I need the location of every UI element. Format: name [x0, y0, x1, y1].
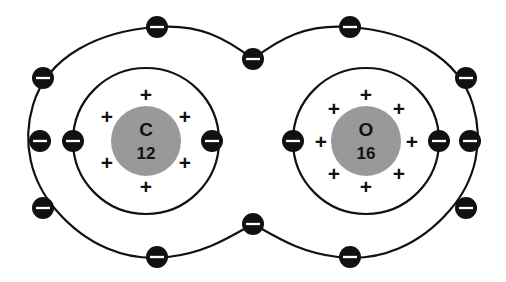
oxygen-element-symbol: O [359, 119, 374, 140]
oxygen-proton: + [328, 97, 340, 120]
carbon-element-symbol: C [139, 119, 153, 140]
carbon-proton: + [179, 151, 191, 174]
carbon-nucleus [111, 106, 181, 176]
electron [29, 130, 51, 152]
electron [339, 16, 361, 38]
electron [62, 130, 84, 152]
electron [201, 130, 223, 152]
electron [428, 130, 450, 152]
electron [146, 16, 168, 38]
carbon-proton: + [140, 83, 152, 106]
oxygen-proton: + [315, 130, 327, 153]
oxygen-proton: + [406, 130, 418, 153]
oxygen-proton: + [393, 162, 405, 185]
electron [455, 197, 477, 219]
electron [339, 246, 361, 268]
oxygen-proton: + [328, 162, 340, 185]
electron [146, 246, 168, 268]
carbon-proton: + [140, 175, 152, 198]
electron [455, 67, 477, 89]
electron [242, 213, 264, 235]
bohr-model-diagram: C 12 + + + + + + O 16 + + + + + + + + [0, 0, 506, 282]
carbon-proton: + [179, 105, 191, 128]
carbon-mass-number: 12 [137, 144, 156, 163]
electron [32, 67, 54, 89]
electron [459, 130, 481, 152]
carbon-proton: + [101, 105, 113, 128]
oxygen-proton: + [360, 175, 372, 198]
oxygen-mass-number: 16 [357, 144, 376, 163]
diagram-canvas: C 12 + + + + + + O 16 + + + + + + + + [0, 0, 506, 282]
oxygen-proton: + [360, 83, 372, 106]
electron [242, 48, 264, 70]
carbon-proton: + [101, 151, 113, 174]
electron [32, 197, 54, 219]
electron [282, 130, 304, 152]
oxygen-proton: + [393, 97, 405, 120]
oxygen-nucleus [331, 106, 401, 176]
